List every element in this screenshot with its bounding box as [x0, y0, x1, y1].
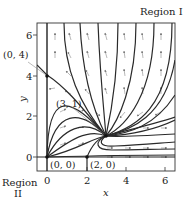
label-equilibrium-0-0: (0, 0) — [50, 159, 76, 170]
label-equilibrium-0-4: (0, 4) — [3, 49, 29, 60]
equilibrium-dot-0-0 — [45, 155, 49, 159]
y-axis-label: y — [17, 96, 28, 103]
trajectories — [37, 23, 175, 171]
x-tick-2: 2 — [84, 175, 90, 186]
plot-area — [37, 23, 175, 171]
y-tick-4: 4 — [26, 71, 32, 82]
region-1-label: Region I — [140, 6, 183, 17]
phase-portrait-figure: 6 4 2 0 0 2 4 6 x y (0, 4) (3, 1) (0, 0)… — [0, 0, 186, 200]
equilibrium-dot-3-1 — [104, 134, 108, 138]
x-tick-0: 0 — [44, 175, 50, 186]
label-equilibrium-2-0: (2, 0) — [90, 159, 116, 170]
x-tick-6: 6 — [162, 175, 168, 186]
label-equilibrium-3-1: (3, 1) — [56, 98, 82, 109]
y-tick-6: 6 — [26, 30, 32, 41]
y-tick-2: 2 — [26, 111, 32, 122]
region-2-label-line1: Region — [2, 177, 38, 188]
tick-marks — [33, 35, 165, 171]
region-2-label-line2: II — [14, 188, 22, 199]
equilibrium-dot-2-0 — [85, 155, 89, 159]
y-tick-0: 0 — [26, 152, 32, 163]
x-axis-label: x — [103, 187, 109, 198]
x-tick-4: 4 — [123, 175, 129, 186]
